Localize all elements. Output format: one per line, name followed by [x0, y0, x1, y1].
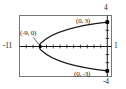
- x-axis-max-label: 1: [114, 42, 118, 50]
- lower-intercept-label: (0, -3): [74, 71, 90, 78]
- vertex-point: [39, 45, 42, 48]
- y-axis-max-label: 4: [104, 4, 108, 12]
- y-axis-min-label: -4: [103, 78, 109, 86]
- upper-intercept-point: [106, 20, 110, 24]
- graph-canvas: [0, 0, 126, 89]
- lower-intercept-point: [106, 69, 110, 73]
- x-axis-min-label: -11: [3, 42, 12, 50]
- vertex-point-label: (-9, 0): [20, 30, 36, 37]
- upper-intercept-label: (0, 3): [76, 18, 90, 25]
- figure-container: -11 1 4 -4 (-9, 0) (0, 3) (0, -3): [0, 0, 126, 89]
